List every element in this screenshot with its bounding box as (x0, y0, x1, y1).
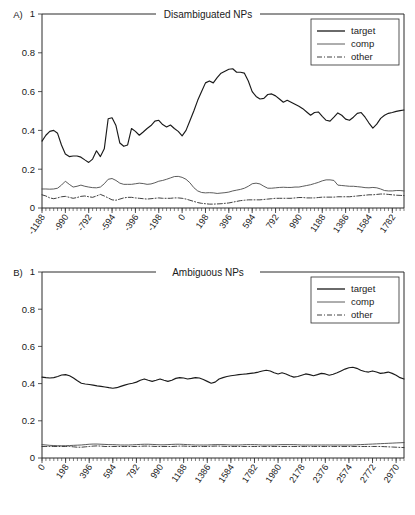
x-tick-label: -594 (99, 212, 118, 232)
legend-label-target: target (351, 25, 376, 36)
x-tick-label: -1188 (26, 212, 47, 236)
y-tick-label: 0 (30, 202, 35, 213)
x-tick-label: 594 (241, 212, 258, 230)
x-tick-label: -990 (52, 212, 71, 232)
legend-label-comp: comp (351, 296, 374, 307)
x-tick-label: 0 (36, 462, 47, 472)
y-tick-label: 0.8 (22, 47, 35, 58)
legend-label-other: other (351, 51, 373, 62)
x-tick-label: 1386 (193, 462, 213, 484)
series-line-target (42, 367, 404, 388)
y-tick-label: 1 (30, 266, 35, 277)
y-tick-label: 1 (30, 8, 35, 19)
series-line-other (42, 446, 404, 448)
x-tick-label: 1782 (240, 462, 260, 484)
x-tick-label: 0 (176, 212, 187, 222)
x-tick-label: 2772 (358, 462, 378, 484)
y-tick-label: 0.6 (22, 86, 35, 97)
y-tick-label: 0.2 (22, 164, 35, 175)
x-tick-label: 1188 (308, 212, 327, 234)
chart-panel-a: Disambiguated NPsA)00.20.40.60.81-1188-9… (0, 0, 415, 255)
chart-title: Disambiguated NPs (164, 9, 252, 20)
y-tick-label: 0.8 (22, 304, 35, 315)
y-tick-label: 0.6 (22, 341, 35, 352)
panel-letter: A) (13, 9, 23, 20)
x-tick-label: 990 (287, 212, 304, 230)
x-tick-label: -198 (145, 212, 164, 232)
y-tick-label: 0.4 (22, 378, 35, 389)
series-line-comp (42, 176, 404, 193)
x-tick-label: -396 (122, 212, 141, 232)
chart-title: Ambiguous NPs (172, 267, 244, 278)
x-tick-label: 990 (148, 462, 165, 480)
panel-letter: B) (13, 267, 23, 278)
x-tick-label: 2970 (382, 462, 402, 484)
x-tick-label: 1980 (264, 462, 284, 484)
x-tick-label: -792 (75, 212, 94, 232)
y-tick-label: 0.4 (22, 125, 35, 136)
x-tick-label: 594 (101, 462, 118, 480)
y-tick-label: 0.2 (22, 415, 35, 426)
x-tick-label: 2178 (287, 462, 307, 484)
chart-b-svg: Ambiguous NPsB)00.20.40.60.8101983965947… (0, 258, 415, 515)
x-tick-label: 2574 (334, 462, 354, 484)
x-tick-label: 1782 (378, 212, 398, 234)
legend-label-target: target (351, 283, 376, 294)
x-tick-label: 2376 (311, 462, 331, 484)
x-tick-label: 792 (125, 462, 142, 480)
series-line-other (42, 194, 404, 204)
chart-panel-b: Ambiguous NPsB)00.20.40.60.8101983965947… (0, 258, 415, 513)
x-tick-label: 396 (217, 212, 234, 230)
x-tick-label: 792 (264, 212, 281, 230)
x-tick-label: 396 (78, 462, 95, 480)
y-tick-label: 0 (30, 452, 35, 463)
x-tick-label: 198 (194, 212, 211, 230)
x-tick-label: 1188 (169, 462, 188, 484)
series-line-comp (42, 443, 404, 446)
legend-label-comp: comp (351, 38, 374, 49)
legend-label-other: other (351, 309, 373, 320)
figure-container: Disambiguated NPsA)00.20.40.60.81-1188-9… (0, 0, 415, 515)
x-tick-label: 1584 (216, 462, 236, 484)
x-tick-label: 1584 (354, 212, 374, 234)
series-line-target (42, 69, 404, 163)
x-tick-label: 1386 (331, 212, 351, 234)
chart-a-svg: Disambiguated NPsA)00.20.40.60.81-1188-9… (0, 0, 415, 255)
x-tick-label: 198 (54, 462, 71, 480)
